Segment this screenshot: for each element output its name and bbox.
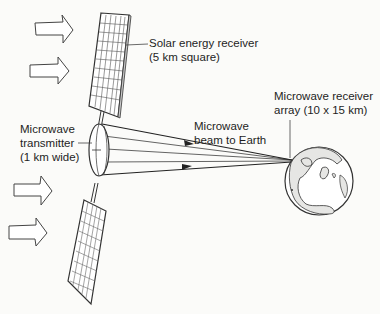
solar-receiver-label: Solar energy receiver (5 km square) — [149, 36, 258, 64]
upper-solar-panel — [89, 13, 131, 118]
microwave-transmitter — [89, 124, 109, 176]
lower-solar-panel — [68, 200, 106, 304]
beam-label: Microwave beam to Earth — [194, 119, 266, 147]
earth-globe — [285, 147, 353, 215]
receiver-array-label: Microwave receiver array (10 x 15 km) — [274, 89, 373, 117]
transmitter-label: Microwave transmitter (1 km wide) — [20, 122, 79, 164]
